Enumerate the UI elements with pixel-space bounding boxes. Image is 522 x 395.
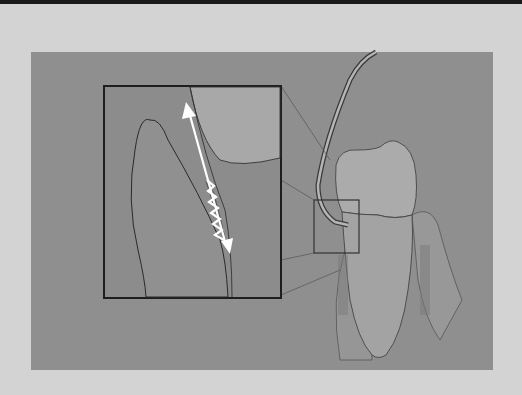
connector-line: [281, 86, 330, 160]
connector-line: [281, 253, 314, 260]
inset-box: [104, 86, 281, 298]
gingiva-right: [412, 212, 462, 340]
root-shadow-right: [420, 245, 430, 315]
tooth-crown: [336, 141, 417, 218]
connector-line: [281, 180, 314, 200]
connector-line: [281, 270, 340, 295]
dental-illustration: [0, 0, 522, 395]
root-shadow-left: [338, 255, 348, 315]
